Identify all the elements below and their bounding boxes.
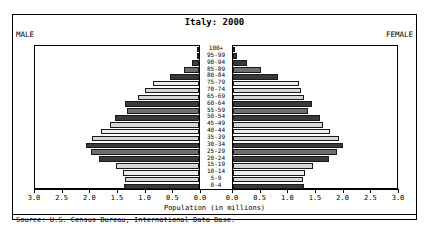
male-bar-10-14 (123, 170, 199, 176)
x-axis-tick-label: 2.0 (336, 194, 349, 202)
female-bar-30-34 (233, 143, 343, 149)
female-bar-5-9 (233, 177, 303, 183)
x-axis-tick (172, 189, 173, 193)
female-bar-15-19 (233, 163, 313, 169)
female-bar-row (233, 142, 397, 149)
female-bar-row (233, 94, 397, 101)
x-axis-tick (398, 189, 399, 193)
male-bar-40-44 (101, 129, 199, 135)
male-bar-25-29 (91, 149, 199, 155)
female-bar-row (233, 80, 397, 87)
male-bar-row (35, 135, 199, 142)
female-bar-row (233, 101, 397, 108)
age-label-0-4: 0-4 (200, 182, 232, 189)
male-bar-row (35, 46, 199, 53)
female-bar-80-84 (233, 74, 278, 80)
female-bar-55-59 (233, 108, 308, 114)
male-axis-label: MALE (16, 30, 34, 39)
x-axis-tick-label: 0.5 (166, 194, 179, 202)
male-bar-5-9 (125, 177, 199, 183)
male-bar-row (35, 53, 199, 60)
female-bar-90-94 (233, 60, 247, 66)
female-bar-85-89 (233, 67, 261, 73)
x-axis-tick-label: 0.0 (226, 194, 239, 202)
x-axis-tick-label: 1.0 (138, 194, 151, 202)
male-bar-100+ (197, 47, 199, 53)
x-axis-tick-label: 3.0 (28, 194, 41, 202)
female-bar-20-24 (233, 156, 329, 162)
male-bar-row (35, 149, 199, 156)
male-bar-row (35, 108, 199, 115)
population-pyramid-chart: Italy: 2000 MALE FEMALE 100+95-9990-9485… (0, 0, 431, 235)
male-bar-30-34 (86, 143, 199, 149)
male-bar-55-59 (127, 108, 199, 114)
female-bar-row (233, 108, 397, 115)
x-axis-tick (34, 189, 35, 193)
x-axis-tick (315, 189, 316, 193)
female-bar-row (233, 60, 397, 67)
male-bar-85-89 (184, 67, 199, 73)
male-bar-90-94 (192, 60, 199, 66)
x-axis-tick (117, 189, 118, 193)
female-bar-35-39 (233, 136, 339, 142)
female-bar-40-44 (233, 129, 330, 135)
x-axis-tick-label: 2.0 (83, 194, 96, 202)
x-axis-tick (260, 189, 261, 193)
female-bar-row (233, 163, 397, 170)
male-bar-row (35, 67, 199, 74)
female-bar-60-64 (233, 101, 312, 107)
male-bar-15-19 (116, 163, 199, 169)
female-bar-row (233, 169, 397, 176)
female-bar-row (233, 67, 397, 74)
female-bar-100+ (233, 47, 235, 53)
x-axis-tick (370, 189, 371, 193)
x-axis-tick-label: 1.5 (309, 194, 322, 202)
x-axis-tick (232, 189, 233, 193)
male-bar-row (35, 87, 199, 94)
male-bar-45-49 (110, 122, 199, 128)
male-bar-row (35, 101, 199, 108)
x-axis-tick-label: 2.5 (55, 194, 68, 202)
female-bar-row (233, 121, 397, 128)
x-axis-title: Population (in millions) (13, 204, 416, 212)
x-axis-tick-label: 2.5 (364, 194, 377, 202)
male-bar-35-39 (92, 136, 199, 142)
plot-area: 100+95-9990-9485-8980-8475-7970-7465-696… (34, 45, 398, 189)
male-bar-70-74 (145, 88, 199, 94)
female-panel (232, 45, 398, 189)
source-note: Source: U.S. Census Bureau, Internationa… (16, 216, 235, 224)
female-bar-row (233, 53, 397, 60)
female-bar-95-99 (233, 53, 237, 59)
male-bar-row (35, 156, 199, 163)
male-bar-row (35, 94, 199, 101)
x-axis-tick (89, 189, 90, 193)
age-group-labels: 100+95-9990-9485-8980-8475-7970-7465-696… (200, 45, 232, 189)
chart-title: Italy: 2000 (13, 17, 416, 27)
male-bar-50-54 (115, 115, 199, 121)
male-bar-row (35, 115, 199, 122)
x-axis-tick-label: 0.0 (194, 194, 207, 202)
female-bar-row (233, 46, 397, 53)
x-axis-tick (343, 189, 344, 193)
source-divider (13, 214, 416, 215)
female-bar-45-49 (233, 122, 323, 128)
chart-frame: Italy: 2000 MALE FEMALE 100+95-9990-9485… (12, 14, 417, 220)
female-bar-row (233, 135, 397, 142)
male-bar-20-24 (99, 156, 199, 162)
x-axis-tick (200, 189, 201, 193)
x-axis-tick-label: 1.5 (111, 194, 124, 202)
female-axis-label: FEMALE (386, 30, 413, 39)
male-bar-row (35, 176, 199, 183)
female-bar-row (233, 176, 397, 183)
male-bar-75-79 (153, 81, 199, 87)
male-bar-65-69 (138, 95, 199, 101)
male-bar-60-64 (125, 101, 199, 107)
female-bar-65-69 (233, 95, 304, 101)
x-axis-tick-label: 1.0 (281, 194, 294, 202)
male-bar-row (35, 121, 199, 128)
female-bar-row (233, 87, 397, 94)
female-bar-row (233, 149, 397, 156)
female-bar-row (233, 128, 397, 135)
female-bar-75-79 (233, 81, 299, 87)
x-axis-tick (62, 189, 63, 193)
